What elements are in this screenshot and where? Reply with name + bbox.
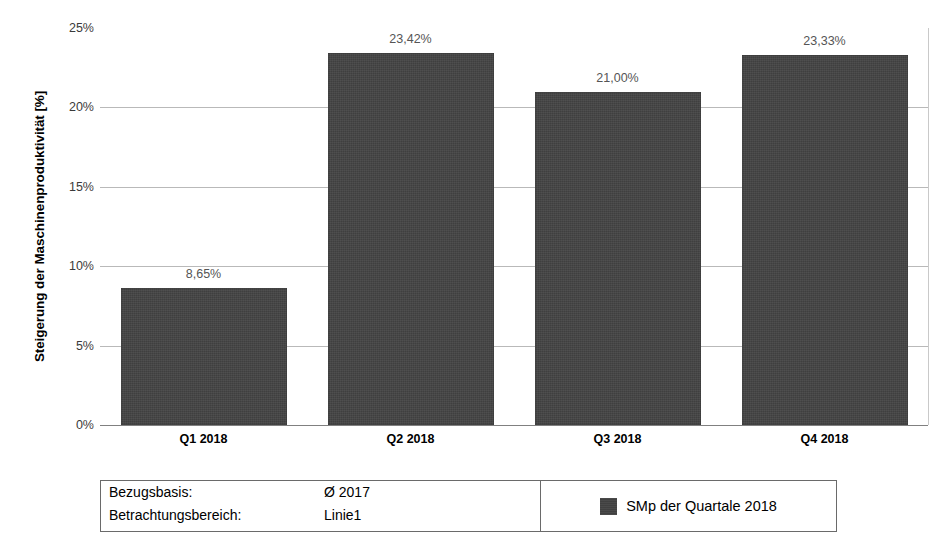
bar-value-label: 21,00%: [596, 71, 638, 85]
y-tick-mark: [88, 28, 94, 29]
plot-area: 8,65%23,42%21,00%23,33%: [100, 28, 928, 425]
y-tick-label: 0%: [30, 418, 94, 432]
x-tick-label: Q2 2018: [387, 432, 435, 446]
x-tick-label: Q4 2018: [801, 432, 849, 446]
y-tick-mark: [88, 187, 94, 188]
bar-value-label: 23,42%: [389, 32, 431, 46]
footer-value-betrachtungsbereich: Linie1: [324, 507, 361, 523]
bar-value-label: 23,33%: [803, 34, 845, 48]
footer-key-bezugsbasis: Bezugsbasis:: [109, 484, 324, 500]
footer-value-bezugsbasis: Ø 2017: [324, 484, 370, 500]
y-tick-label: 15%: [30, 180, 94, 194]
footer-row: Betrachtungsbereich: Linie1: [109, 507, 540, 530]
footer-key-betrachtungsbereich: Betrachtungsbereich:: [109, 507, 324, 523]
y-tick-label: 20%: [30, 100, 94, 114]
bar: [742, 55, 908, 425]
chart-footer-box: Bezugsbasis: Ø 2017 Betrachtungsbereich:…: [100, 480, 837, 532]
y-tick-mark: [88, 266, 94, 267]
x-tick-label: Q3 2018: [594, 432, 642, 446]
y-axis-ticks: 0%5%10%15%20%25%: [28, 0, 94, 558]
bar: [121, 288, 287, 425]
bar: [328, 53, 494, 425]
bar-value-label: 8,65%: [186, 267, 221, 281]
footer-row: Bezugsbasis: Ø 2017: [109, 484, 540, 507]
chart-figure: Steigerung der Maschinenproduktivität [%…: [0, 0, 950, 558]
x-axis-baseline: [100, 425, 928, 426]
y-tick-label: 10%: [30, 259, 94, 273]
bar: [535, 92, 701, 425]
footer-info-cell: Bezugsbasis: Ø 2017 Betrachtungsbereich:…: [101, 481, 541, 531]
x-tick-label: Q1 2018: [180, 432, 228, 446]
plot-right-border: [928, 28, 929, 425]
y-tick-mark: [88, 425, 94, 426]
y-tick-mark: [88, 107, 94, 108]
legend: SMp der Quartale 2018: [541, 481, 836, 531]
y-tick-mark: [88, 346, 94, 347]
y-tick-label: 25%: [30, 21, 94, 35]
legend-label: SMp der Quartale 2018: [626, 498, 777, 514]
y-tick-label: 5%: [30, 339, 94, 353]
legend-swatch-icon: [600, 498, 617, 515]
